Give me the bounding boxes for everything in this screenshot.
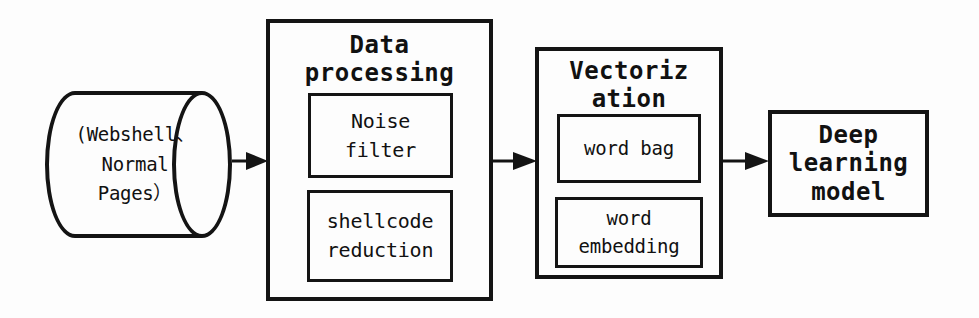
stage-vectorization-title-line-1: Vectoriz xyxy=(539,57,719,85)
input-datastore-line-1: (Webshell、 xyxy=(76,120,195,149)
stage-data-processing-title-line-1: Data xyxy=(270,31,489,59)
stage-data-processing-title: Data processing xyxy=(270,31,489,88)
substep-noise-filter: Noise filter xyxy=(308,93,453,178)
substep-word-embedding: word embedding xyxy=(555,197,703,268)
substep-noise-filter-line-1: Noise xyxy=(351,107,410,136)
stage-deep-learning-model-title-line-3: model xyxy=(811,178,886,206)
stage-deep-learning-model: Deep learning model xyxy=(768,110,929,217)
substep-shellcode-reduction: shellcode reduction xyxy=(307,190,453,282)
substep-shellcode-reduction-line-1: shellcode xyxy=(327,207,434,236)
substep-word-embedding-line-2: embedding xyxy=(578,233,679,261)
stage-deep-learning-model-title-line-1: Deep xyxy=(819,121,879,149)
stage-data-processing-title-line-2: processing xyxy=(270,59,489,87)
stage-deep-learning-model-title-line-2: learning xyxy=(789,149,909,177)
arrow-dataprocessing-to-vectorization xyxy=(491,150,537,172)
substep-word-embedding-line-1: word xyxy=(607,205,652,233)
substep-word-bag-line-1: word bag xyxy=(584,135,674,163)
stage-deep-learning-model-title: Deep learning model xyxy=(772,114,925,213)
input-datastore-line-2: Normal xyxy=(102,150,169,179)
arrow-datastore-to-dataprocessing xyxy=(232,150,268,172)
substep-shellcode-reduction-line-2: reduction xyxy=(327,236,434,265)
stage-vectorization-title: Vectoriz ation xyxy=(539,57,719,114)
input-datastore-label: (Webshell、 Normal Pages） xyxy=(69,91,201,238)
input-datastore-line-3: Pages） xyxy=(98,179,172,208)
arrow-vectorization-to-model xyxy=(721,150,769,172)
diagram-canvas: (Webshell、 Normal Pages） Data processing… xyxy=(0,0,979,318)
substep-noise-filter-line-2: filter xyxy=(345,136,416,165)
input-datastore-cylinder: (Webshell、 Normal Pages） xyxy=(45,91,232,238)
stage-vectorization-title-line-2: ation xyxy=(539,85,719,113)
substep-word-bag: word bag xyxy=(557,114,701,183)
